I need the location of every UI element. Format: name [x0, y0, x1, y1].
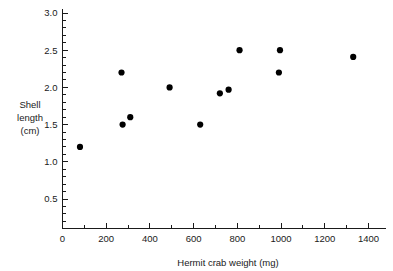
y-tick-label: 1.5 [44, 119, 57, 130]
data-point [77, 144, 83, 150]
y-axis-title: Shelllength(cm) [17, 99, 43, 136]
scatter-plot-figure: 0.51.01.52.02.53.0 020040060080010001200… [0, 0, 393, 271]
data-point [226, 87, 232, 93]
x-tick-label: 0 [60, 233, 65, 244]
plot-canvas: 0.51.01.52.02.53.0 020040060080010001200… [0, 0, 393, 271]
x-tick-label: 800 [229, 233, 245, 244]
y-axis-title-line: (cm) [21, 125, 40, 136]
y-tick-label: 1.0 [44, 156, 57, 167]
x-axis-title: Hermit crab weight (mg) [177, 257, 278, 268]
y-axis-title-line: length [17, 112, 43, 123]
data-point [350, 54, 356, 60]
x-tick-label: 200 [98, 233, 114, 244]
data-point [118, 69, 124, 75]
x-tick-label: 1200 [314, 233, 335, 244]
data-point [217, 90, 223, 96]
data-point [120, 122, 126, 128]
data-point [127, 114, 133, 120]
data-point [197, 122, 203, 128]
y-axis-title-line: Shell [19, 99, 40, 110]
x-tick-label: 600 [186, 233, 202, 244]
data-point [277, 47, 283, 53]
data-point [236, 47, 242, 53]
y-tick-label: 2.0 [44, 82, 57, 93]
figure-background [0, 0, 393, 271]
data-point [167, 84, 173, 90]
y-tick-label: 3.0 [44, 7, 57, 18]
y-tick-label: 2.5 [44, 45, 57, 56]
y-tick-label: 0.5 [44, 193, 57, 204]
x-tick-label: 1400 [358, 233, 379, 244]
x-tick-label: 1000 [271, 233, 292, 244]
data-point [276, 69, 282, 75]
x-tick-label: 400 [142, 233, 158, 244]
